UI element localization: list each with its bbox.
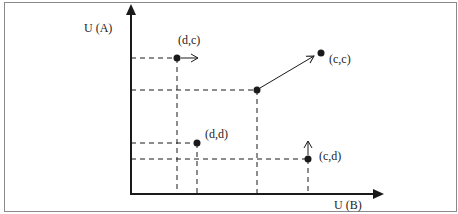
point-dc xyxy=(174,55,181,62)
frame-border xyxy=(5,3,457,212)
label-cd: (c,d) xyxy=(319,149,341,163)
diagram-canvas: U (A) U (B) (d,c) (c,c) (d,d) (c,d) xyxy=(0,0,458,214)
outcome-points xyxy=(174,50,325,163)
arrow-diagonal-icon xyxy=(260,56,314,88)
x-axis-arrowhead-icon xyxy=(373,189,384,199)
point-cc xyxy=(318,50,325,57)
y-axis-label: U (A) xyxy=(84,21,112,35)
move-arrows xyxy=(181,56,314,155)
label-dd: (d,d) xyxy=(205,127,228,141)
point-mid xyxy=(254,87,261,94)
x-axis-label: U (B) xyxy=(334,198,362,212)
y-axis-arrowhead-icon xyxy=(126,4,136,15)
axes xyxy=(126,4,384,199)
point-cd xyxy=(305,156,312,163)
guide-lines xyxy=(131,58,308,194)
point-dd xyxy=(194,140,201,147)
label-dc: (d,c) xyxy=(178,33,200,47)
label-cc: (c,c) xyxy=(329,52,351,66)
